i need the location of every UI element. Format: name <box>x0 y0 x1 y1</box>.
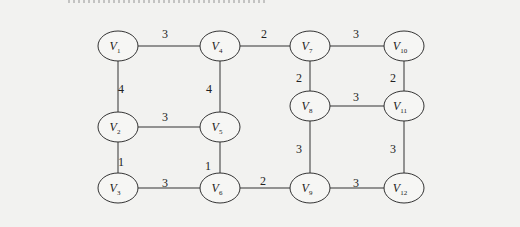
node-ellipse <box>200 31 240 61</box>
edges-layer <box>118 46 404 188</box>
node-ellipse <box>384 91 424 121</box>
edge-weight-label: 1 <box>205 159 211 173</box>
edge-weight-label: 1 <box>118 155 124 169</box>
node-ellipse <box>98 173 138 203</box>
edge-weight-label: 3 <box>353 27 359 41</box>
edge-weight-label: 2 <box>260 174 266 188</box>
graph-diagram: 3234422331133323 V1V4V7V10V8V11V2V5V3V6V… <box>0 0 520 227</box>
node-v5: V5 <box>200 112 240 142</box>
node-v2: V2 <box>98 112 138 142</box>
node-v11: V11 <box>384 91 424 121</box>
edge-weight-label: 4 <box>206 82 212 96</box>
node-v6: V6 <box>200 173 240 203</box>
edge-weight-label: 3 <box>162 27 168 41</box>
node-ellipse <box>98 112 138 142</box>
node-ellipse <box>384 31 424 61</box>
edge-weight-label: 3 <box>353 176 359 190</box>
edge-weight-label: 2 <box>390 71 396 85</box>
node-v10: V10 <box>384 31 424 61</box>
edge-weight-label: 3 <box>353 90 359 104</box>
node-v12: V12 <box>384 173 424 203</box>
edge-weight-label: 3 <box>162 110 168 124</box>
edge-weight-label: 3 <box>390 142 396 156</box>
node-v1: V1 <box>98 31 138 61</box>
weights-layer: 3234422331133323 <box>118 27 396 190</box>
node-v9: V9 <box>290 173 330 203</box>
node-ellipse <box>200 112 240 142</box>
edge-weight-label: 4 <box>118 82 124 96</box>
edge-weight-label: 3 <box>296 142 302 156</box>
edge-weight-label: 3 <box>162 176 168 190</box>
node-v7: V7 <box>290 31 330 61</box>
node-v3: V3 <box>98 173 138 203</box>
node-v8: V8 <box>290 91 330 121</box>
node-ellipse <box>290 31 330 61</box>
edge-weight-label: 2 <box>296 71 302 85</box>
edge-weight-label: 2 <box>261 27 267 41</box>
node-v4: V4 <box>200 31 240 61</box>
node-ellipse <box>200 173 240 203</box>
node-ellipse <box>98 31 138 61</box>
node-ellipse <box>290 91 330 121</box>
node-ellipse <box>384 173 424 203</box>
node-ellipse <box>290 173 330 203</box>
